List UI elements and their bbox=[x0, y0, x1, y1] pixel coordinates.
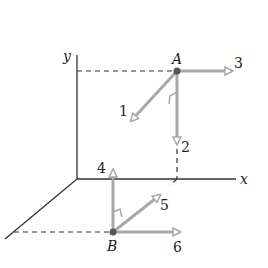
vector-4-label: 4 bbox=[97, 160, 106, 176]
point-A bbox=[174, 68, 181, 75]
vector-6-label: 6 bbox=[173, 239, 182, 255]
guide-lines bbox=[14, 71, 177, 232]
z-axis bbox=[5, 179, 77, 239]
vector-3-label: 3 bbox=[234, 55, 243, 71]
point-B bbox=[110, 229, 117, 236]
point-A-label: A bbox=[170, 51, 182, 67]
vector-5-label: 5 bbox=[160, 197, 169, 213]
point-B-label: B bbox=[106, 238, 117, 254]
vector-1-label: 1 bbox=[119, 103, 128, 119]
y-axis-label: y bbox=[62, 48, 72, 64]
vector-2-label: 2 bbox=[181, 139, 190, 155]
vector-diagram: y x A B 3 1 2 4 5 6 bbox=[0, 0, 268, 268]
x-axis-label: x bbox=[240, 171, 248, 187]
vector-5 bbox=[113, 195, 160, 232]
vectors-A bbox=[131, 71, 232, 144]
